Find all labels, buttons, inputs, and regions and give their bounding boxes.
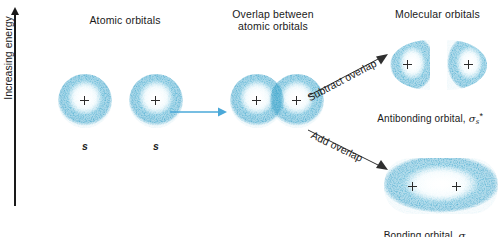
orbital-diagram: Increasing energy Atomic orbitals Overla… <box>0 0 504 237</box>
header-overlap-line1: Overlap between <box>208 8 338 20</box>
header-atomic-orbitals: Atomic orbitals <box>60 14 190 26</box>
energy-axis <box>14 14 16 206</box>
caption-bonding-orbital: Bonding orbital, σs <box>372 218 469 237</box>
sigma-subscript-bonding: s <box>466 235 470 237</box>
label-left-s-orbital: s <box>82 140 88 152</box>
sigma-symbol-bonding: σ <box>459 230 466 237</box>
caption-antibonding-orbital: Antibonding orbital, σs* <box>366 98 483 140</box>
nucleus-plus-bonding-left <box>408 182 417 191</box>
caption-bonding-text: Bonding orbital, <box>384 230 459 237</box>
antibonding-star-icon: * <box>479 111 483 121</box>
bonding-orbital-merged <box>382 156 500 216</box>
label-right-s-orbital: s <box>153 140 159 152</box>
sigma-symbol-antibonding: σ <box>469 113 476 124</box>
nucleus-plus-antibonding-right <box>464 60 473 69</box>
nucleus-plus-antibonding-left <box>403 60 412 69</box>
nucleus-plus-right-s <box>151 96 160 105</box>
nucleus-plus-left-s <box>80 96 89 105</box>
nucleus-plus-overlap-left <box>252 96 261 105</box>
nucleus-plus-overlap-right <box>292 96 301 105</box>
energy-axis-label: Increasing energy <box>2 6 14 110</box>
header-overlap-line2: atomic orbitals <box>208 20 338 32</box>
caption-antibonding-text: Antibonding orbital, <box>377 113 469 124</box>
combine-arrow <box>170 104 228 120</box>
nucleus-plus-bonding-right <box>452 182 461 191</box>
header-molecular-orbitals: Molecular orbitals <box>375 8 500 20</box>
